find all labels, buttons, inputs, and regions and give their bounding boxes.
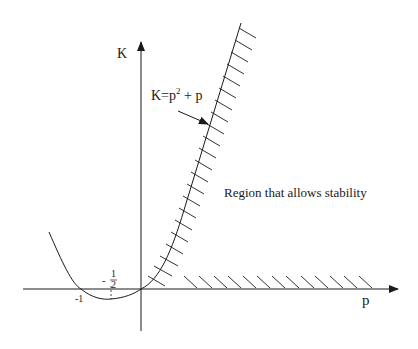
- tick-label-half-denominator: 2: [111, 279, 116, 290]
- curve-label-pointer: [178, 111, 208, 124]
- parabola-curve: [49, 23, 241, 299]
- tick-label-half-sign: -: [102, 274, 106, 286]
- tick-label-half-numerator: 1: [111, 268, 116, 279]
- tick-label-minus-one: -1: [75, 293, 83, 304]
- stability-diagram: K p -1 - 1 2 K=p2 + p Region that allows…: [0, 0, 418, 349]
- axis-hatching: [184, 276, 372, 288]
- curve-equation-tail: + p: [181, 88, 203, 103]
- stability-region-label: Region that allows stability: [224, 185, 367, 200]
- curve-equation-base: K=p: [151, 88, 176, 103]
- x-axis-label: p: [362, 292, 370, 308]
- y-axis-label: K: [117, 46, 127, 61]
- curve-equation-label: K=p2 + p: [151, 86, 202, 103]
- curve-hatching: [148, 28, 256, 286]
